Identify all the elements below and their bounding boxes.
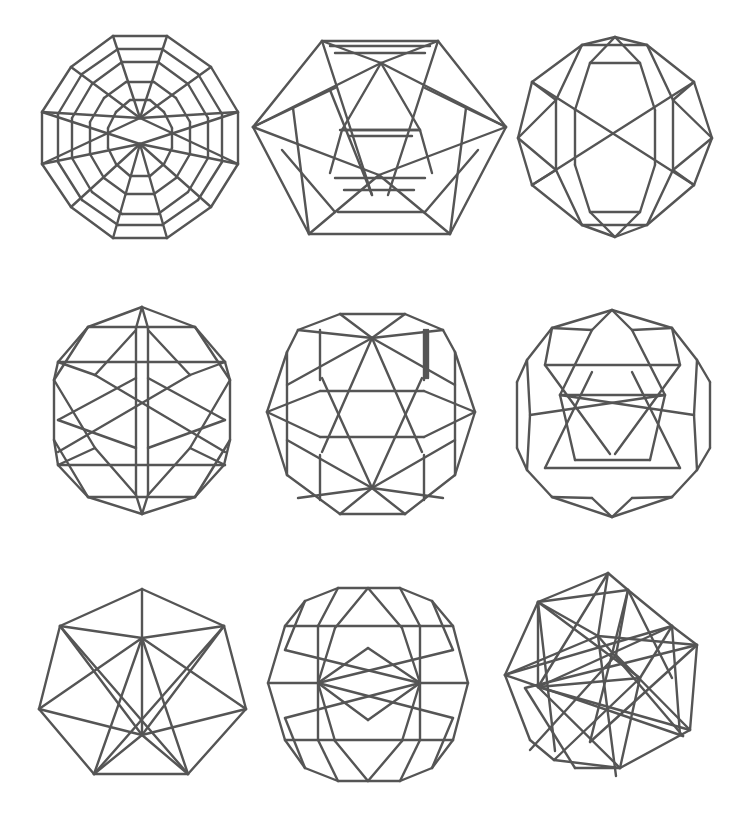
edge	[443, 330, 455, 352]
edge	[60, 589, 142, 626]
edge	[402, 683, 420, 741]
edge	[293, 88, 335, 108]
edge	[379, 175, 450, 234]
edge	[545, 365, 610, 454]
edge	[267, 391, 320, 412]
edge	[282, 150, 335, 212]
edge	[628, 590, 672, 678]
edge	[330, 130, 342, 173]
edge	[530, 655, 616, 750]
polyhedron-r2c3	[268, 588, 468, 781]
polyhedra-grid	[0, 0, 747, 816]
edge	[453, 626, 468, 683]
edge	[268, 626, 285, 683]
edge	[697, 448, 710, 470]
edge	[267, 352, 287, 412]
edge	[517, 448, 527, 470]
edge	[575, 63, 590, 110]
edge	[694, 360, 697, 415]
edge	[420, 130, 432, 173]
edge	[211, 164, 238, 207]
edge	[253, 127, 309, 234]
edge	[142, 497, 195, 514]
edge	[527, 360, 530, 415]
edge	[432, 601, 453, 626]
polyhedron-r1c1	[42, 36, 238, 238]
edge	[335, 588, 368, 628]
edge	[318, 628, 335, 683]
polyhedron-r1c2	[54, 307, 230, 514]
edge	[425, 88, 466, 108]
edge	[90, 154, 104, 178]
edge	[60, 626, 142, 638]
edge	[211, 67, 238, 112]
edge	[287, 338, 372, 385]
edge	[90, 98, 104, 122]
edge	[142, 626, 224, 638]
edge	[142, 589, 224, 626]
edge	[88, 497, 142, 514]
edge	[697, 360, 710, 382]
edge	[647, 45, 694, 82]
edge	[527, 415, 530, 470]
edge	[267, 412, 287, 475]
edge	[154, 178, 176, 194]
edge	[560, 330, 592, 395]
edge	[694, 415, 697, 470]
edge	[575, 165, 590, 212]
edge	[95, 448, 136, 495]
edge	[148, 330, 190, 375]
edge	[253, 108, 293, 127]
edge	[552, 328, 592, 330]
edge	[42, 67, 71, 112]
edge	[108, 112, 116, 128]
edge	[372, 338, 455, 385]
edge	[60, 626, 142, 735]
edge	[39, 709, 94, 774]
edge	[88, 307, 142, 327]
edge	[552, 497, 592, 498]
edge	[148, 448, 190, 495]
edge	[690, 645, 697, 730]
edge	[287, 440, 372, 488]
edge	[167, 207, 211, 238]
edge	[287, 330, 298, 352]
edge	[167, 36, 211, 67]
edge	[530, 740, 554, 760]
edge	[71, 36, 113, 67]
edge	[425, 150, 478, 212]
edge	[188, 709, 246, 774]
edge	[438, 41, 506, 127]
edge	[620, 678, 640, 768]
edge	[554, 678, 640, 760]
edge	[628, 590, 672, 626]
polyhedron-r3c3	[505, 573, 697, 776]
edge	[538, 602, 598, 636]
edge	[453, 683, 468, 740]
edge	[615, 365, 680, 454]
edge	[176, 98, 190, 122]
edge	[298, 330, 372, 338]
polyhedron-r2c1	[253, 41, 506, 234]
edge	[527, 470, 552, 497]
edge	[632, 330, 665, 395]
polyhedron-r3c1	[518, 37, 712, 237]
edge	[318, 683, 453, 718]
edge	[190, 380, 230, 448]
edge	[455, 352, 475, 412]
edge	[285, 601, 305, 626]
edge	[632, 328, 672, 330]
edge	[285, 683, 420, 718]
edge	[647, 185, 694, 225]
edge	[517, 360, 527, 382]
edge	[640, 165, 655, 212]
edge	[532, 185, 582, 225]
edge	[632, 497, 672, 498]
edge	[298, 314, 340, 330]
edge	[368, 588, 402, 628]
edge	[268, 683, 285, 740]
edge	[647, 45, 673, 100]
edge	[450, 108, 466, 234]
edge	[405, 314, 443, 330]
edge	[54, 380, 95, 448]
